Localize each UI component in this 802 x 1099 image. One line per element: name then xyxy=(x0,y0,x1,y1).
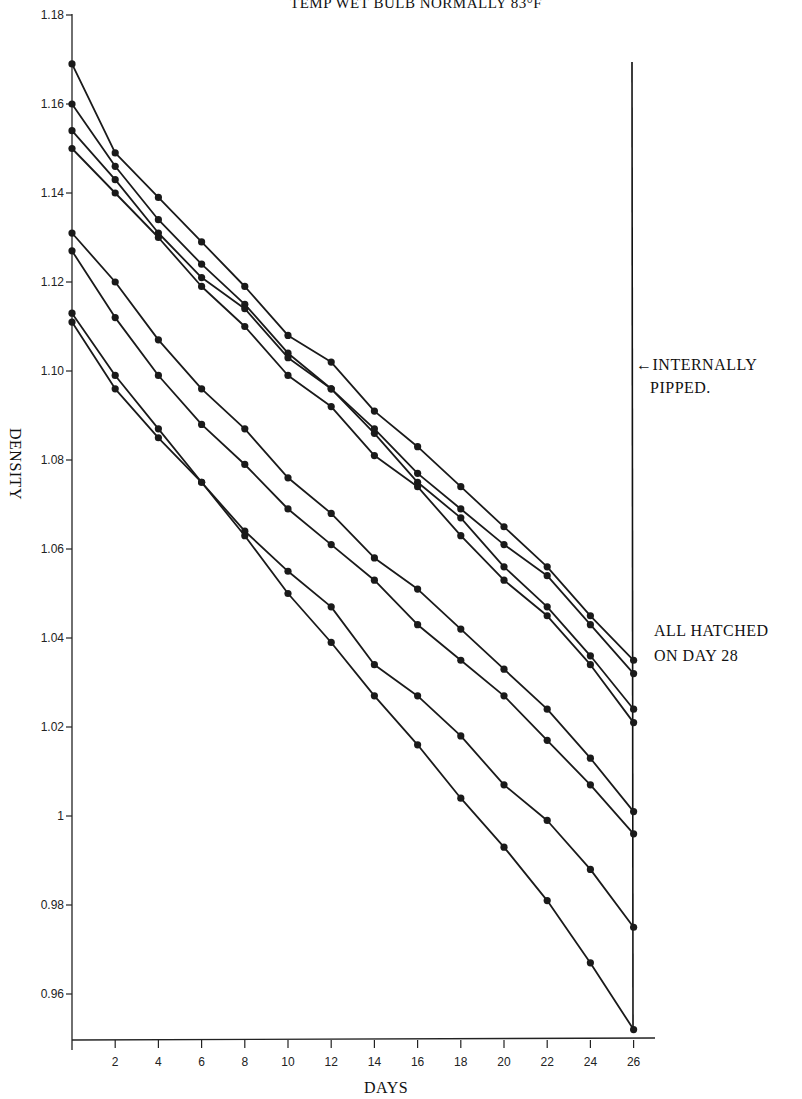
internally-pipped-marker-line xyxy=(632,62,633,1030)
data-point xyxy=(241,305,248,312)
series-line-8 xyxy=(68,318,637,1033)
data-point xyxy=(284,474,291,481)
data-point xyxy=(198,283,205,290)
data-point xyxy=(328,541,335,548)
x-tick-label: 2 xyxy=(112,1055,119,1069)
x-tick-label: 20 xyxy=(497,1055,511,1069)
series-line-2 xyxy=(68,100,637,677)
data-point xyxy=(630,1026,637,1033)
data-point xyxy=(68,127,75,134)
data-point xyxy=(112,314,119,321)
data-point xyxy=(587,755,594,762)
data-point xyxy=(587,652,594,659)
data-point xyxy=(198,261,205,268)
data-point xyxy=(284,568,291,575)
data-point xyxy=(371,577,378,584)
data-point xyxy=(328,359,335,366)
data-point xyxy=(112,372,119,379)
data-point xyxy=(68,100,75,107)
data-point xyxy=(241,425,248,432)
data-point xyxy=(68,247,75,254)
data-point xyxy=(284,372,291,379)
data-point xyxy=(284,505,291,512)
data-point xyxy=(587,959,594,966)
data-point xyxy=(630,719,637,726)
data-point xyxy=(371,407,378,414)
data-point xyxy=(241,283,248,290)
data-point xyxy=(112,149,119,156)
data-point xyxy=(155,216,162,223)
data-point xyxy=(414,470,421,477)
series-path xyxy=(72,313,634,927)
series-path xyxy=(72,104,634,674)
data-point xyxy=(457,483,464,490)
data-point xyxy=(500,692,507,699)
data-point xyxy=(241,532,248,539)
data-point xyxy=(284,590,291,597)
data-point xyxy=(414,443,421,450)
series-path xyxy=(72,233,634,812)
x-tick-label: 22 xyxy=(541,1055,555,1069)
data-point xyxy=(155,336,162,343)
y-tick-label: 0.96 xyxy=(41,987,65,1001)
data-point xyxy=(155,434,162,441)
data-point xyxy=(544,817,551,824)
data-point xyxy=(414,483,421,490)
y-tick-label: 1.02 xyxy=(41,720,65,734)
x-tick-label: 18 xyxy=(454,1055,468,1069)
data-point xyxy=(68,229,75,236)
data-point xyxy=(371,661,378,668)
data-point xyxy=(457,532,464,539)
data-point xyxy=(457,514,464,521)
data-point xyxy=(284,332,291,339)
data-point xyxy=(500,523,507,530)
data-point xyxy=(328,639,335,646)
x-tick-label: 6 xyxy=(198,1055,205,1069)
series-path xyxy=(72,64,634,660)
annotation-internally-pipped-line1: ←INTERNALLY xyxy=(636,356,757,373)
data-point xyxy=(155,234,162,241)
data-point xyxy=(500,541,507,548)
y-tick-label: 1.18 xyxy=(41,8,65,22)
data-point xyxy=(457,626,464,633)
data-point xyxy=(587,612,594,619)
data-point xyxy=(371,554,378,561)
x-tick-label: 26 xyxy=(627,1055,641,1069)
data-point xyxy=(544,563,551,570)
x-ticks: 2468101214161820222426 xyxy=(112,1040,641,1069)
data-point xyxy=(241,461,248,468)
x-tick-label: 24 xyxy=(584,1055,598,1069)
y-tick-label: 1.06 xyxy=(41,542,65,556)
series-line-4 xyxy=(68,145,637,726)
y-ticks: 0.960.9811.021.041.061.081.101.121.141.1… xyxy=(41,8,72,1001)
data-point xyxy=(371,452,378,459)
density-chart: TEMP WET BULB NORMALLY 83°F 0.960.9811.0… xyxy=(0,0,802,1099)
data-point xyxy=(500,844,507,851)
data-point xyxy=(328,510,335,517)
data-point xyxy=(328,403,335,410)
data-point xyxy=(371,430,378,437)
data-point xyxy=(630,706,637,713)
data-point xyxy=(630,808,637,815)
data-point xyxy=(457,795,464,802)
data-point xyxy=(544,706,551,713)
data-point xyxy=(198,238,205,245)
data-point xyxy=(457,657,464,664)
series-line-1 xyxy=(68,60,637,664)
data-point xyxy=(587,661,594,668)
data-point xyxy=(414,585,421,592)
data-point xyxy=(198,385,205,392)
data-point xyxy=(414,692,421,699)
series-line-5 xyxy=(68,229,637,815)
series-line-6 xyxy=(68,247,637,837)
data-point xyxy=(284,354,291,361)
data-point xyxy=(112,163,119,170)
data-point xyxy=(630,924,637,931)
x-tick-label: 16 xyxy=(411,1055,425,1069)
annotation-all-hatched-line2: ON DAY 28 xyxy=(654,647,738,664)
data-point xyxy=(68,310,75,317)
data-point xyxy=(544,612,551,619)
data-point xyxy=(544,572,551,579)
x-tick-label: 10 xyxy=(281,1055,295,1069)
series-group xyxy=(68,60,637,1033)
